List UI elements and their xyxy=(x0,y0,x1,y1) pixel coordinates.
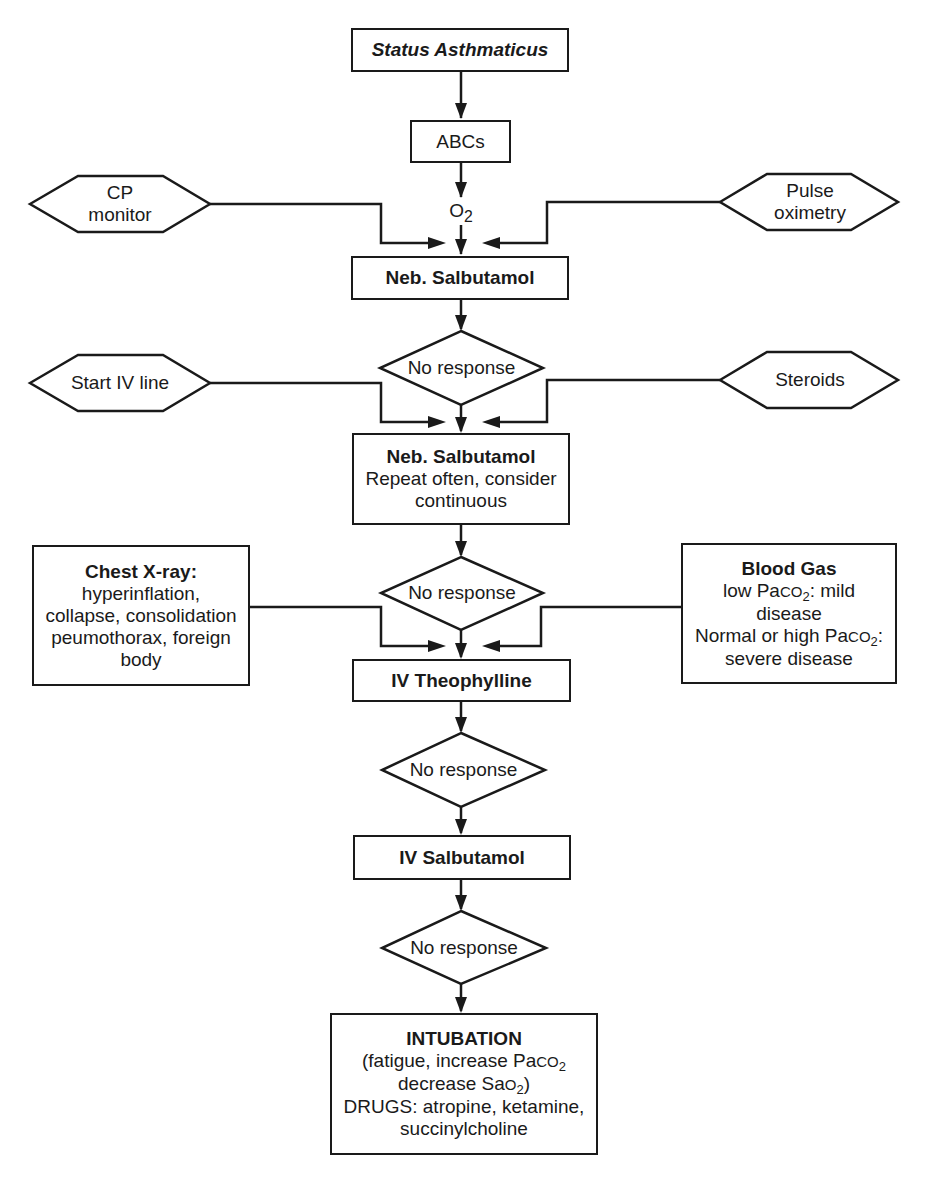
pulse-oximetry-line2: oximetry xyxy=(774,202,846,224)
status-asthmaticus-label: Status Asthmaticus xyxy=(372,39,549,61)
intubation-box: INTUBATION (fatigue, increase PaCO2 decr… xyxy=(330,1013,598,1155)
edge-o2-neb1 xyxy=(455,225,467,255)
edge-decision1-neb2 xyxy=(455,405,467,433)
blood-gas-line1-co: CO xyxy=(780,583,803,600)
edge-decision3-iv-salbutamol xyxy=(455,807,467,835)
intubation-line1: (fatigue, increase PaCO2 xyxy=(362,1050,566,1073)
iv-theophylline-box: IV Theophylline xyxy=(352,659,571,702)
edge-theophylline-decision3 xyxy=(455,702,467,733)
iv-salbutamol-label: IV Salbutamol xyxy=(399,847,525,869)
edge-neb2-decision2 xyxy=(455,525,467,557)
decision4-text: No response xyxy=(410,937,518,959)
neb-salbutamol-label: Neb. Salbutamol xyxy=(386,267,535,289)
edge-cp-monitor-neb1 xyxy=(210,204,446,249)
blood-gas-line3-sub: 2 xyxy=(871,634,878,649)
blood-gas-line3-post: : xyxy=(878,625,883,646)
edge-iv-salbutamol-decision4 xyxy=(455,880,467,911)
blood-gas-box: Blood Gas low PaCO2: mild disease Normal… xyxy=(681,543,897,684)
cp-monitor-line1: CP xyxy=(107,182,133,204)
blood-gas-line1: low PaCO2: mild xyxy=(723,580,855,603)
cp-monitor-line2: monitor xyxy=(88,204,151,226)
intubation-line1-pre: (fatigue, increase Pa xyxy=(362,1050,536,1071)
decision1-label: No response xyxy=(380,356,543,380)
pulse-oximetry-label: Pulse oximetry xyxy=(750,174,870,230)
intubation-line2-sub: 2 xyxy=(516,1082,523,1097)
status-asthmaticus-box: Status Asthmaticus xyxy=(351,28,569,72)
edge-chest-xray-theophylline xyxy=(250,607,446,652)
blood-gas-title: Blood Gas xyxy=(741,558,836,580)
blood-gas-line2: disease xyxy=(756,603,822,625)
start-iv-text: Start IV line xyxy=(71,372,169,394)
steroids-text: Steroids xyxy=(775,369,845,391)
neb2-line2: continuous xyxy=(415,490,507,512)
abcs-box: ABCs xyxy=(410,120,511,163)
edge-blood-gas-theophylline xyxy=(482,607,681,652)
chest-xray-title: Chest X-ray: xyxy=(85,561,197,583)
chest-xray-line2: collapse, consolidation xyxy=(45,605,236,627)
intubation-line1-sub: 2 xyxy=(559,1059,566,1074)
neb-salbutamol-box: Neb. Salbutamol xyxy=(351,256,569,300)
decision4-label: No response xyxy=(382,936,546,960)
blood-gas-line3-pre: Normal or high Pa xyxy=(695,625,848,646)
chest-xray-line3: peumothorax, foreign xyxy=(51,627,231,649)
decision2-label: No response xyxy=(381,581,543,605)
cp-monitor-label: CP monitor xyxy=(60,176,180,232)
edge-start-iv-neb2 xyxy=(210,383,446,428)
abcs-label: ABCs xyxy=(436,131,485,153)
neb2-title: Neb. Salbutamol xyxy=(387,446,536,468)
neb2-line1: Repeat often, consider xyxy=(365,468,556,490)
iv-theophylline-label: IV Theophylline xyxy=(391,670,531,692)
intubation-line2: decrease SaO2) xyxy=(398,1073,530,1096)
start-iv-label: Start IV line xyxy=(45,371,195,395)
intubation-line3: DRUGS: atropine, ketamine, xyxy=(344,1096,585,1118)
edge-abcs-o2 xyxy=(455,163,467,198)
blood-gas-line1-sub: 2 xyxy=(802,589,809,604)
steroids-label: Steroids xyxy=(735,368,885,392)
decision1-text: No response xyxy=(408,357,516,379)
decision2-text: No response xyxy=(408,582,516,604)
intubation-line2-pre: decrease Sa xyxy=(398,1073,505,1094)
o2-base: O xyxy=(449,200,464,221)
blood-gas-line4: severe disease xyxy=(725,648,853,670)
chest-xray-line4: body xyxy=(120,649,161,671)
blood-gas-line1-pre: low Pa xyxy=(723,580,780,601)
decision3-label: No response xyxy=(382,758,545,782)
edge-pulse-oximetry-neb1 xyxy=(482,202,720,249)
neb-salbutamol-repeat-box: Neb. Salbutamol Repeat often, consider c… xyxy=(352,433,570,525)
blood-gas-line3: Normal or high PaCO2: xyxy=(695,625,883,648)
chest-xray-line1: hyperinflation, xyxy=(82,583,200,605)
chest-xray-box: Chest X-ray: hyperinflation, collapse, c… xyxy=(32,545,250,686)
intubation-line1-co: CO xyxy=(536,1053,559,1070)
edge-neb1-decision1 xyxy=(455,300,467,331)
iv-salbutamol-box: IV Salbutamol xyxy=(353,835,571,880)
pulse-oximetry-line1: Pulse xyxy=(786,180,834,202)
intubation-line2-post: ) xyxy=(524,1073,530,1094)
blood-gas-line3-co: CO xyxy=(848,628,871,645)
intubation-line4: succinylcholine xyxy=(400,1118,528,1140)
edge-decision2-theophylline xyxy=(455,630,467,659)
o2-label: O2 xyxy=(441,200,481,226)
blood-gas-line1-post: : mild xyxy=(810,580,855,601)
edge-status-abcs xyxy=(455,72,467,119)
decision3-text: No response xyxy=(410,759,518,781)
o2-subscript: 2 xyxy=(464,208,473,225)
intubation-line2-o: O xyxy=(505,1076,517,1093)
edge-steroids-neb2 xyxy=(482,380,720,428)
edge-decision4-intubation xyxy=(455,984,467,1013)
intubation-title: INTUBATION xyxy=(406,1028,522,1050)
